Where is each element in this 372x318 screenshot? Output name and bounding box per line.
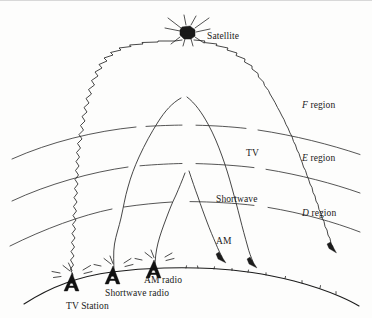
e-region-label: E region: [302, 154, 335, 164]
d-region-symbol: D: [302, 208, 309, 218]
satellite-label: Satellite: [207, 32, 239, 42]
am-radio-emission-sparks: [135, 250, 174, 261]
tv-signal-arrowhead: [327, 242, 337, 253]
am-signal-label: AM: [216, 237, 232, 247]
shortwave-signal-path-left: [114, 98, 181, 273]
am-radio-label: AM radio: [144, 276, 182, 286]
terrain-texture: [186, 266, 336, 294]
tv-station-label: TV Station: [66, 302, 109, 312]
ionosphere-propagation-figure: Satellite F region E region D region TV …: [0, 0, 372, 318]
f-region-label: F region: [302, 101, 335, 111]
d-region-label: D region: [302, 209, 336, 219]
shortwave-radio-tower[interactable]: [105, 266, 120, 284]
e-d-boundary-arc: [12, 164, 360, 202]
e-region-word: region: [308, 153, 335, 163]
d-region-word: region: [309, 208, 336, 218]
shortwave-signal-label: Shortwave: [216, 195, 258, 205]
am-signal-path-left: [155, 173, 185, 267]
f-region-word: region: [308, 100, 335, 110]
tv-signal-path-left: [71, 40, 183, 275]
tv-signal-label: TV: [246, 149, 259, 159]
tv-station-tower[interactable]: [64, 273, 79, 291]
shortwave-radio-label: Shortwave radio: [105, 289, 169, 299]
am-signal-arrowhead: [216, 252, 226, 263]
